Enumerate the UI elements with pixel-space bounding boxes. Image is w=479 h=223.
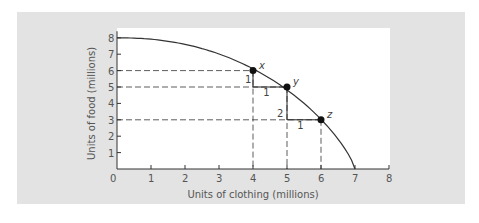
- x-axis-title: Units of clothing (millions): [187, 189, 318, 200]
- x-tick-label: 7: [352, 173, 358, 184]
- ppf-curve: [117, 38, 355, 169]
- annotation-clothing-gain-1: 1: [263, 87, 269, 98]
- x-tick-label: 1: [148, 173, 154, 184]
- y-tick-label: 8: [108, 33, 114, 44]
- y-tick-label: 5: [108, 82, 114, 93]
- x-tick-label: 2: [182, 173, 188, 184]
- point-label-y: y: [292, 76, 300, 87]
- x-tick-label: 4: [250, 173, 256, 184]
- x-tick-label: 8: [386, 173, 392, 184]
- x-tick-label: 6: [318, 173, 324, 184]
- x-tick-label: 3: [216, 173, 222, 184]
- x-tick-label: 5: [284, 173, 290, 184]
- annotation-food-loss-1: 1: [245, 74, 251, 85]
- y-tick-label: 3: [108, 115, 114, 126]
- point-label-z: z: [326, 109, 333, 120]
- annotation-food-loss-2: 2: [277, 108, 283, 119]
- y-tick-label: 6: [108, 66, 114, 77]
- ppf-chart: 01234567812345678Units of clothing (mill…: [0, 0, 479, 223]
- x-tick-label: 0: [110, 173, 116, 184]
- y-tick-label: 4: [108, 98, 114, 109]
- data-point-z: [318, 116, 325, 123]
- y-tick-label: 2: [108, 131, 114, 142]
- y-tick-label: 7: [108, 49, 114, 60]
- annotation-clothing-gain-2: 1: [297, 120, 303, 131]
- y-tick-label: 1: [108, 148, 114, 159]
- point-label-x: x: [258, 60, 265, 71]
- y-axis-title: Units of food (millions): [86, 47, 97, 160]
- data-point-x: [250, 67, 257, 74]
- data-point-y: [284, 84, 291, 91]
